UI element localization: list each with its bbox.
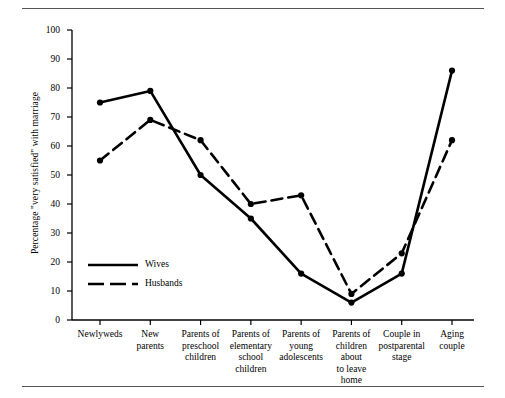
data-point: [348, 300, 354, 306]
data-point: [97, 157, 103, 163]
data-point: [197, 172, 203, 178]
series-line-husbands: [100, 120, 452, 294]
data-point: [449, 68, 455, 74]
data-point: [449, 137, 455, 143]
data-point: [147, 88, 153, 94]
data-point: [97, 99, 103, 105]
data-point: [399, 271, 405, 277]
figure-container: Percentage "very satisfied" with marriag…: [0, 0, 505, 398]
chart-series: [97, 68, 455, 306]
chart-plot-area: [0, 0, 505, 398]
legend-swatches: [88, 265, 138, 284]
chart-axes: [67, 30, 474, 325]
data-point: [298, 192, 304, 198]
data-point: [147, 117, 153, 123]
data-point: [248, 215, 254, 221]
series-line-wives: [100, 71, 452, 303]
data-point: [298, 271, 304, 277]
data-point: [197, 137, 203, 143]
data-point: [399, 250, 405, 256]
data-point: [348, 291, 354, 297]
data-point: [248, 201, 254, 207]
